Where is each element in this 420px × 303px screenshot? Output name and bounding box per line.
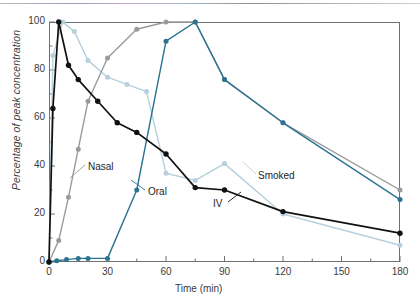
data-point	[86, 58, 91, 63]
data-point	[222, 187, 227, 192]
data-point	[222, 77, 227, 82]
data-point	[193, 20, 198, 25]
y-tick-label-100: 100	[19, 15, 45, 26]
x-tick-label-60: 60	[149, 266, 183, 277]
data-point	[115, 120, 120, 125]
series-iv	[46, 19, 402, 264]
series-smoked	[47, 20, 403, 265]
x-tick-label-90: 90	[208, 266, 242, 277]
data-point	[105, 56, 110, 61]
data-point	[164, 20, 169, 25]
data-point	[72, 29, 77, 34]
data-point	[54, 258, 59, 263]
leader-line-smoked	[243, 162, 256, 174]
data-point	[66, 195, 71, 200]
data-point	[76, 147, 81, 152]
data-point	[280, 209, 285, 214]
data-point	[398, 243, 403, 248]
data-point	[50, 106, 55, 111]
series-label-iv: IV	[213, 198, 222, 209]
data-point	[125, 82, 130, 87]
chart-figure: Percentage of peak concentration Time (m…	[0, 0, 420, 303]
y-tick-label-60: 60	[19, 111, 45, 122]
data-point	[86, 256, 91, 261]
x-tick-label-180: 180	[383, 266, 417, 277]
data-point	[144, 89, 149, 94]
data-point	[66, 62, 71, 67]
leader-line-nasal	[70, 165, 85, 178]
data-point	[398, 197, 403, 202]
data-point	[105, 75, 110, 80]
data-point	[64, 257, 69, 262]
series-label-nasal: Nasal	[88, 161, 114, 172]
data-point	[193, 185, 198, 190]
data-point	[134, 130, 139, 135]
data-point	[164, 171, 169, 176]
data-point	[163, 151, 168, 156]
y-tick-label-20: 20	[19, 207, 45, 218]
data-point	[134, 27, 139, 32]
chart-canvas	[0, 0, 420, 303]
data-point	[397, 231, 402, 236]
series-label-smoked: Smoked	[258, 170, 295, 181]
data-point	[193, 178, 198, 183]
series-label-oral: Oral	[148, 186, 167, 197]
series-oral	[47, 20, 403, 265]
data-point	[134, 188, 139, 193]
data-point	[105, 256, 110, 261]
data-point	[50, 53, 55, 58]
data-point	[164, 39, 169, 44]
y-tick-label-80: 80	[19, 63, 45, 74]
x-tick-label-150: 150	[325, 266, 359, 277]
data-point	[95, 99, 100, 104]
data-point	[76, 256, 81, 261]
y-tick-label-0: 0	[19, 255, 45, 266]
series-nasal	[47, 20, 403, 265]
data-point	[222, 161, 227, 166]
data-point	[76, 77, 81, 82]
data-point	[398, 188, 403, 193]
x-tick-label-120: 120	[266, 266, 300, 277]
data-point	[56, 19, 61, 24]
data-point	[56, 238, 61, 243]
x-tick-label-30: 30	[91, 266, 125, 277]
data-point	[281, 120, 286, 125]
x-tick-label-0: 0	[32, 266, 66, 277]
y-tick-label-40: 40	[19, 159, 45, 170]
data-point	[86, 99, 91, 104]
data-point	[46, 259, 51, 264]
